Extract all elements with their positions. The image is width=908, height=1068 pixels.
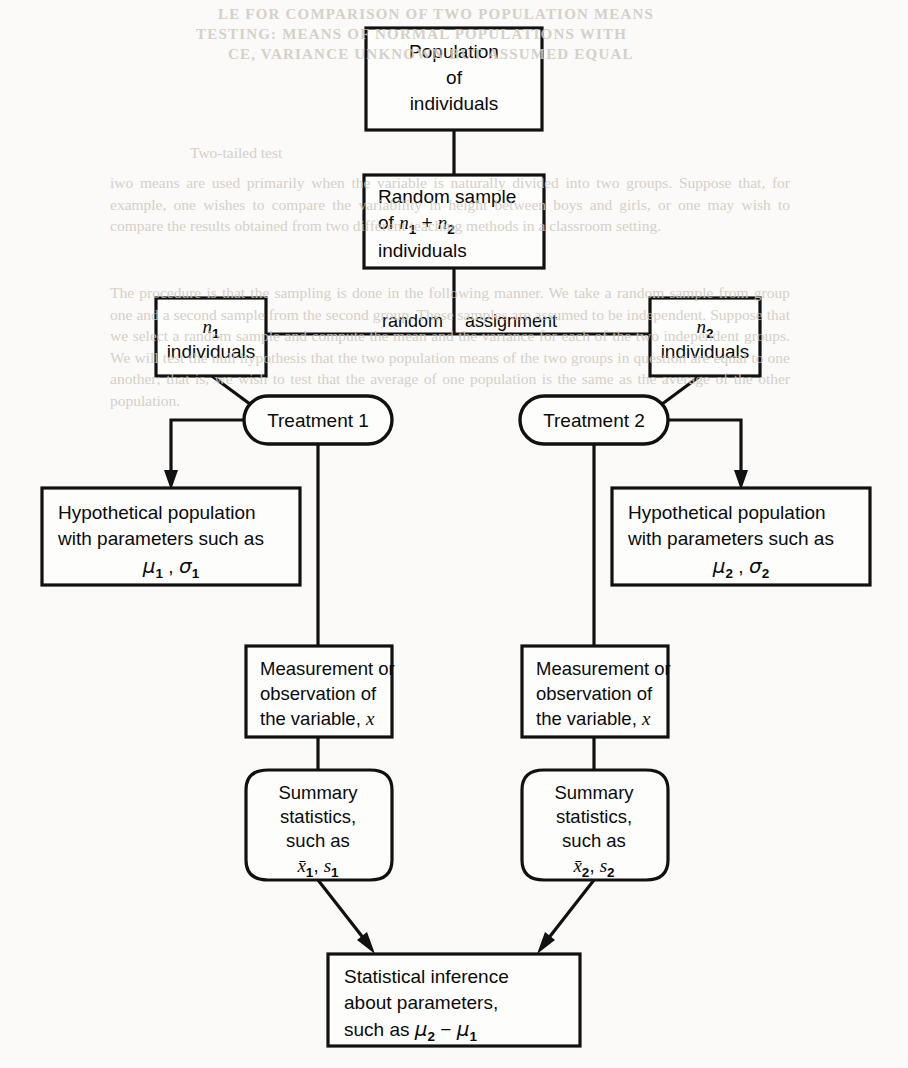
node-summary-2: Summary statistics, such as x̄2, s2 xyxy=(522,770,668,880)
node-population: Population of individuals xyxy=(366,28,542,130)
measurement2-line-1: Measurement or xyxy=(536,658,671,679)
summary1-s-sub: 1 xyxy=(331,865,339,880)
measurement2-line-3: the variable, x xyxy=(536,708,651,729)
node-group2: n2 individuals xyxy=(650,298,760,376)
hyppop2-parameters: μ2 , σ2 xyxy=(712,554,769,581)
node-summary-1: Summary statistics, such as x̄1, s1 xyxy=(246,770,392,880)
hyppop2-mu-sub: 2 xyxy=(726,566,734,581)
summary1-s: s xyxy=(324,855,331,876)
node-measurement-1: Measurement or observation of the variab… xyxy=(246,646,395,737)
summary2-sep: , xyxy=(589,855,599,876)
node-hypothetical-population-2: Hypothetical population with parameters … xyxy=(612,488,870,585)
random-sample-n2: n xyxy=(438,212,448,233)
group2-n: n xyxy=(696,316,706,337)
inference-mu2: μ xyxy=(414,1017,428,1041)
connector-treatment2-to-hyppop2 xyxy=(666,420,741,477)
hyppop1-line-2: with parameters such as xyxy=(57,528,264,549)
hyppop2-sigma-sub: 2 xyxy=(762,566,770,581)
inference-mu1: μ xyxy=(456,1017,470,1041)
flowchart-svg: Population of individuals Random sample … xyxy=(0,0,908,1068)
inference-line-2: about parameters, xyxy=(344,992,498,1013)
summary1-line-1: Summary xyxy=(278,782,358,803)
hyppop1-parameters: μ1 , σ1 xyxy=(142,554,200,581)
summary1-sep: , xyxy=(313,855,323,876)
random-sample-plus: + xyxy=(416,212,438,233)
node-measurement-2: Measurement or observation of the variab… xyxy=(522,646,671,737)
inference-line-3-prefix: such as xyxy=(344,1019,415,1040)
summary2-s: s xyxy=(600,855,607,876)
measurement2-variable: x xyxy=(641,708,651,729)
node-hypothetical-population-1: Hypothetical population with parameters … xyxy=(42,488,300,585)
connector-summary1-to-inference xyxy=(318,880,368,944)
treatment1-label: Treatment 1 xyxy=(267,410,369,431)
random-assignment-word-right: assignment xyxy=(465,311,557,331)
inference-minus: − xyxy=(435,1019,457,1040)
measurement1-line-1: Measurement or xyxy=(260,658,395,679)
group2-label: individuals xyxy=(661,341,750,362)
group1-label: individuals xyxy=(167,341,256,362)
random-sample-line-3: individuals xyxy=(378,240,467,261)
summary1-line-3: such as xyxy=(286,830,350,851)
summary1-line-2: statistics, xyxy=(280,806,356,827)
measurement2-line-3-prefix: the variable, xyxy=(536,708,642,729)
random-sample-n2-sub: 2 xyxy=(447,222,455,237)
summary2-s-sub: 2 xyxy=(607,865,615,880)
inference-mu1-sub: 1 xyxy=(469,1029,477,1044)
hyppop1-comma: , xyxy=(163,556,179,577)
node-group1: n1 individuals xyxy=(156,298,266,376)
measurement1-line-3-prefix: the variable, xyxy=(260,708,366,729)
random-sample-line-1: Random sample xyxy=(378,186,516,207)
inference-line-3: such as μ2 − μ1 xyxy=(344,1017,477,1044)
inference-line-1: Statistical inference xyxy=(344,966,509,987)
summary2-line-1: Summary xyxy=(554,782,634,803)
hyppop2-mu: μ xyxy=(712,554,726,578)
group2-sub: 2 xyxy=(706,326,714,341)
inference-mu2-sub: 2 xyxy=(428,1029,436,1044)
node-random-sample: Random sample of n1 + n2 individuals xyxy=(364,175,544,268)
population-line-3: individuals xyxy=(410,93,499,114)
summary2-line-2: statistics, xyxy=(556,806,632,827)
hyppop2-comma: , xyxy=(733,556,749,577)
hyppop1-line-1: Hypothetical population xyxy=(58,502,256,523)
hyppop1-sigma-sub: 1 xyxy=(192,566,200,581)
node-treatment1: Treatment 1 xyxy=(244,396,392,444)
hyppop2-line-2: with parameters such as xyxy=(627,528,834,549)
hyppop1-mu: μ xyxy=(142,554,156,578)
measurement1-variable: x xyxy=(365,708,375,729)
hyppop2-line-1: Hypothetical population xyxy=(628,502,826,523)
population-line-1: Population xyxy=(409,41,499,62)
measurement2-line-2: observation of xyxy=(536,683,653,704)
random-sample-of-word: of xyxy=(378,212,399,233)
node-inference: Statistical inference about parameters, … xyxy=(328,954,580,1046)
population-line-2: of xyxy=(446,67,463,88)
summary2-xbar-sub: 2 xyxy=(582,865,590,880)
group1-sub: 1 xyxy=(212,326,220,341)
summary2-line-3: such as xyxy=(562,830,626,851)
random-sample-n1: n xyxy=(399,212,409,233)
treatment2-label: Treatment 2 xyxy=(543,410,645,431)
connector-treatment1-to-hyppop1 xyxy=(171,420,246,477)
group1-n: n xyxy=(202,316,212,337)
flowchart-canvas: LE FOR COMPARISON OF TWO POPULATION MEAN… xyxy=(0,0,908,1068)
edge-label-random-assignment: random assignment xyxy=(382,311,557,331)
random-assignment-word-left: random xyxy=(382,311,443,331)
node-treatment2: Treatment 2 xyxy=(520,396,668,444)
connector-summary2-to-inference xyxy=(544,880,594,944)
measurement1-line-2: observation of xyxy=(260,683,377,704)
measurement1-line-3: the variable, x xyxy=(260,708,375,729)
